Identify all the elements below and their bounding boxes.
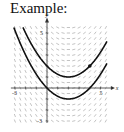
slope-mark bbox=[83, 27, 86, 29]
slope-mark bbox=[14, 109, 15, 112]
slope-mark bbox=[62, 66, 65, 67]
slope-mark bbox=[51, 38, 54, 40]
slope-mark bbox=[51, 109, 54, 111]
slope-mark bbox=[20, 32, 21, 35]
slope-mark bbox=[14, 65, 15, 68]
slope-mark bbox=[62, 71, 65, 72]
slope-mark bbox=[41, 26, 43, 29]
slope-mark bbox=[78, 76, 81, 77]
slope-mark bbox=[72, 44, 75, 45]
slope-mark bbox=[35, 114, 37, 117]
slope-mark bbox=[100, 65, 102, 68]
slope-mark bbox=[56, 43, 59, 44]
slope-mark bbox=[20, 109, 21, 112]
slope-mark bbox=[20, 54, 21, 57]
slope-mark bbox=[14, 81, 15, 84]
slope-mark bbox=[25, 109, 26, 112]
slope-mark bbox=[20, 37, 21, 40]
slope-mark bbox=[78, 120, 81, 121]
slope-mark bbox=[105, 103, 107, 106]
slope-mark bbox=[100, 120, 102, 123]
slope-mark bbox=[100, 43, 102, 46]
y-axis-arrow-icon bbox=[45, 18, 49, 23]
slope-mark bbox=[83, 104, 86, 106]
slope-mark bbox=[89, 54, 91, 56]
slope-mark bbox=[14, 98, 15, 101]
slope-mark bbox=[83, 109, 86, 111]
slope-mark bbox=[51, 60, 54, 62]
slope-mark bbox=[83, 115, 86, 117]
slope-mark bbox=[51, 82, 54, 84]
slope-mark bbox=[78, 104, 81, 105]
x-tick-label: 5 bbox=[100, 90, 103, 96]
slope-mark bbox=[72, 82, 75, 83]
slope-mark bbox=[25, 43, 26, 46]
slope-mark bbox=[105, 26, 107, 29]
slope-mark bbox=[72, 49, 75, 50]
slope-mark bbox=[72, 115, 75, 116]
slope-mark bbox=[56, 120, 59, 121]
slope-mark bbox=[105, 81, 107, 84]
slope-mark bbox=[105, 92, 107, 95]
slope-mark bbox=[83, 43, 86, 45]
slope-mark bbox=[83, 38, 86, 40]
slope-mark bbox=[35, 109, 37, 112]
slope-mark bbox=[51, 65, 54, 67]
slope-mark bbox=[89, 48, 91, 50]
slope-mark bbox=[100, 98, 102, 101]
slope-mark bbox=[78, 109, 81, 110]
slope-mark bbox=[41, 114, 43, 117]
slope-mark bbox=[100, 103, 102, 106]
slope-mark bbox=[41, 54, 43, 57]
slope-mark bbox=[30, 32, 32, 35]
slope-mark bbox=[30, 81, 32, 84]
slope-mark bbox=[56, 54, 59, 55]
slope-mark bbox=[14, 76, 15, 79]
slope-mark bbox=[56, 27, 59, 28]
slope-mark bbox=[100, 32, 102, 35]
slope-mark bbox=[89, 59, 91, 61]
slope-mark bbox=[51, 76, 54, 78]
slope-mark bbox=[78, 82, 81, 83]
slope-mark bbox=[105, 48, 107, 51]
slope-mark bbox=[56, 98, 59, 99]
slope-mark bbox=[41, 48, 43, 51]
slope-mark bbox=[72, 104, 75, 105]
slope-mark bbox=[100, 114, 102, 117]
slope-mark bbox=[78, 38, 81, 39]
slope-mark bbox=[51, 54, 54, 56]
slope-mark bbox=[35, 103, 37, 106]
slope-mark bbox=[25, 48, 26, 51]
slope-mark bbox=[14, 70, 15, 73]
slope-mark bbox=[56, 115, 59, 116]
slope-mark bbox=[25, 65, 26, 68]
slope-mark bbox=[56, 82, 59, 83]
slope-mark bbox=[62, 44, 65, 45]
slope-mark bbox=[89, 76, 91, 78]
slope-mark bbox=[62, 82, 65, 83]
slope-mark bbox=[41, 103, 43, 106]
slope-mark bbox=[25, 98, 26, 101]
slope-mark bbox=[94, 76, 96, 79]
slope-mark bbox=[72, 66, 75, 67]
slope-mark bbox=[20, 92, 21, 95]
slope-mark bbox=[56, 71, 59, 72]
slope-mark bbox=[30, 114, 32, 117]
slope-mark bbox=[56, 38, 59, 39]
slope-mark bbox=[72, 93, 75, 94]
slope-field bbox=[14, 26, 106, 122]
slope-mark bbox=[51, 32, 54, 34]
slope-mark bbox=[20, 103, 21, 106]
slope-mark bbox=[89, 81, 91, 83]
slope-mark bbox=[41, 43, 43, 46]
slope-mark bbox=[72, 38, 75, 39]
slope-mark bbox=[78, 65, 81, 66]
slope-mark bbox=[105, 70, 107, 73]
slope-mark bbox=[83, 60, 86, 62]
slope-mark bbox=[94, 26, 96, 29]
slope-mark bbox=[20, 26, 21, 29]
slope-mark bbox=[78, 49, 81, 50]
slope-mark bbox=[56, 60, 59, 61]
slope-mark bbox=[62, 93, 65, 94]
slope-mark bbox=[20, 65, 21, 68]
